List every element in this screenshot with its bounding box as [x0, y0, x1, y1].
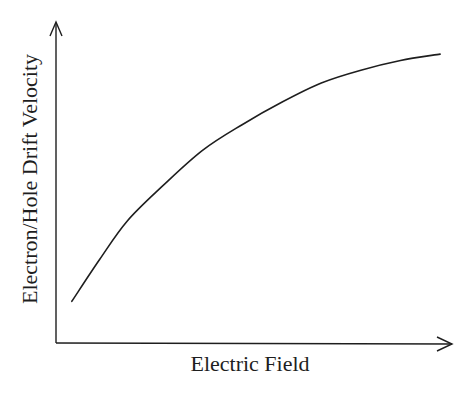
y-axis-label: Electron/Hole Drift Velocity	[19, 53, 41, 303]
drift-velocity-curve	[72, 54, 440, 301]
y-axis-label-container: Electron/Hole Drift Velocity	[17, 22, 43, 335]
x-axis-label: Electric Field	[0, 353, 473, 375]
x-axis	[56, 343, 452, 344]
chart-canvas	[0, 0, 473, 400]
